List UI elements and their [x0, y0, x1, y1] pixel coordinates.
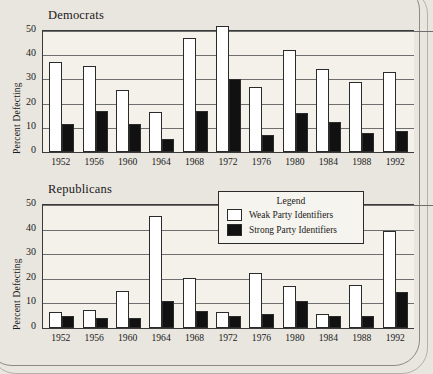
bar-1976-strong — [262, 135, 274, 152]
bar-1976-strong — [262, 314, 274, 328]
bar-1988-weak — [349, 285, 362, 328]
y-tick-30: 30 — [12, 246, 36, 257]
bar-group-1956 — [78, 31, 111, 152]
y-tick-10: 10 — [12, 295, 36, 306]
x-axis-ticks-democrats: 1952195619601964196819721976198019841988… — [42, 156, 414, 167]
bar-1968-weak — [183, 38, 196, 152]
bar-1964-strong — [162, 301, 174, 328]
x-tick-1972: 1972 — [211, 332, 244, 343]
bar-1976-weak — [249, 87, 262, 152]
x-tick-1988: 1988 — [345, 156, 378, 167]
bar-group-1952 — [45, 31, 78, 152]
bar-1968-strong — [196, 311, 208, 328]
bar-group-1984 — [312, 31, 345, 152]
bar-1984-weak — [316, 69, 329, 152]
legend-label-weak: Weak Party Identifiers — [249, 210, 333, 220]
x-tick-1980: 1980 — [278, 156, 311, 167]
bar-1984-strong — [329, 122, 341, 152]
bar-1972-weak — [216, 26, 229, 152]
bar-1988-weak — [349, 82, 362, 152]
y-tick-50: 50 — [12, 197, 36, 208]
bar-1952-weak — [49, 62, 62, 152]
bar-1952-strong — [62, 316, 74, 328]
bar-1988-strong — [362, 316, 374, 328]
chart-title-democrats: Democrats — [48, 8, 104, 23]
bar-1992-weak — [383, 231, 396, 328]
plot-area-democrats — [42, 30, 414, 153]
bar-1976-weak — [249, 273, 262, 328]
x-tick-1976: 1976 — [245, 332, 278, 343]
x-tick-1976: 1976 — [245, 156, 278, 167]
bar-1984-weak — [316, 314, 329, 328]
bar-1960-weak — [116, 291, 129, 328]
bar-1960-weak — [116, 90, 129, 152]
x-tick-1984: 1984 — [312, 156, 345, 167]
x-axis-ticks-republicans: 1952195619601964196819721976198019841988… — [42, 332, 414, 343]
bar-group-1968 — [178, 205, 211, 328]
bar-group-1960 — [112, 205, 145, 328]
bar-group-1976 — [245, 31, 278, 152]
y-tick-50: 50 — [12, 23, 36, 34]
bar-group-1972 — [212, 31, 245, 152]
bar-1964-weak — [149, 216, 162, 328]
x-tick-1952: 1952 — [44, 156, 77, 167]
bar-1988-strong — [362, 133, 374, 152]
x-tick-1992: 1992 — [379, 156, 412, 167]
legend-label-strong: Strong Party Identifiers — [249, 225, 337, 235]
bar-group-1960 — [112, 31, 145, 152]
x-tick-1960: 1960 — [111, 332, 144, 343]
legend-entry-strong: Strong Party Identifiers — [227, 224, 355, 236]
bar-group-1992 — [379, 205, 412, 328]
x-tick-1968: 1968 — [178, 156, 211, 167]
bar-group-1992 — [379, 31, 412, 152]
x-tick-1956: 1956 — [77, 156, 110, 167]
bar-1956-strong — [96, 111, 108, 152]
x-tick-1984: 1984 — [312, 332, 345, 343]
y-tick-40: 40 — [12, 47, 36, 58]
y-tick-20: 20 — [12, 271, 36, 282]
legend-title: Legend — [227, 195, 355, 206]
chart-democrats: Democrats Percent Defecting 01020304050 … — [0, 6, 419, 178]
x-tick-1952: 1952 — [44, 332, 77, 343]
y-tick-40: 40 — [12, 222, 36, 233]
legend: Legend Weak Party Identifiers Strong Par… — [218, 191, 364, 244]
x-tick-1964: 1964 — [144, 332, 177, 343]
chart-republicans: Republicans Percent Defecting 0102030405… — [0, 180, 419, 359]
bar-1960-strong — [129, 318, 141, 328]
bar-1952-strong — [62, 124, 74, 152]
bar-1980-strong — [296, 113, 308, 152]
bar-group-1988 — [345, 31, 378, 152]
bar-1980-weak — [283, 50, 296, 152]
bar-1992-strong — [396, 131, 408, 152]
bar-1956-strong — [96, 318, 108, 328]
bar-1984-strong — [329, 316, 341, 328]
chart-title-republicans: Republicans — [48, 182, 112, 197]
bar-group-1952 — [45, 205, 78, 328]
bar-1972-strong — [229, 79, 241, 152]
bar-1992-strong — [396, 292, 408, 328]
x-tick-1960: 1960 — [111, 156, 144, 167]
bar-1956-weak — [83, 66, 96, 152]
bar-1968-strong — [196, 111, 208, 152]
bar-group-1964 — [145, 205, 178, 328]
legend-entry-weak: Weak Party Identifiers — [227, 209, 355, 221]
legend-swatch-weak-icon — [227, 209, 242, 221]
legend-swatch-strong-icon — [227, 224, 242, 236]
x-tick-1972: 1972 — [211, 156, 244, 167]
bar-1964-weak — [149, 112, 162, 152]
bar-1972-strong — [229, 316, 241, 328]
bar-1980-strong — [296, 301, 308, 328]
bar-group-1964 — [145, 31, 178, 152]
bar-1972-weak — [216, 312, 229, 328]
y-tick-20: 20 — [12, 96, 36, 107]
x-tick-1968: 1968 — [178, 332, 211, 343]
bar-1964-strong — [162, 139, 174, 152]
y-tick-10: 10 — [12, 120, 36, 131]
bar-1992-weak — [383, 72, 396, 152]
bar-1968-weak — [183, 278, 196, 328]
bar-group-1956 — [78, 205, 111, 328]
bar-1980-weak — [283, 286, 296, 328]
x-tick-1980: 1980 — [278, 332, 311, 343]
x-tick-1988: 1988 — [345, 332, 378, 343]
bar-1960-strong — [129, 124, 141, 152]
